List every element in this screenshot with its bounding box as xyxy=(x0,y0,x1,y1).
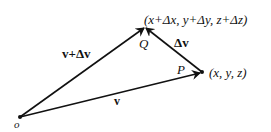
vector-v-arrow xyxy=(20,73,200,117)
point-p-coords: (x, y, z) xyxy=(209,65,247,80)
vector-v-plus-dv-label: v+Δv xyxy=(62,46,91,61)
point-p xyxy=(200,70,204,74)
vector-dv-label: Δv xyxy=(174,35,189,50)
vector-diagram: o P Q (x, y, z) (x+Δx, y+Δy, z+Δz) v v+Δ… xyxy=(0,0,271,132)
point-q-label: Q xyxy=(139,36,149,51)
vector-v-label: v xyxy=(114,94,120,108)
point-q-coords: (x+Δx, y+Δy, z+Δz) xyxy=(144,12,247,27)
vector-v-plus-dv-arrow xyxy=(20,28,144,117)
origin-label: o xyxy=(14,118,20,130)
point-p-label: P xyxy=(176,62,185,77)
